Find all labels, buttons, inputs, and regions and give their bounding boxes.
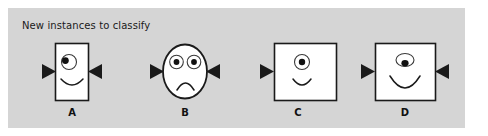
instance-a-figure (20, 38, 124, 106)
instance-c[interactable]: C (246, 38, 350, 128)
instance-b-label: B (133, 107, 237, 118)
instances-panel: New instances to classify (8, 8, 465, 128)
ear-right-icon (435, 64, 449, 79)
instance-a-label: A (20, 107, 124, 118)
instance-b[interactable]: B (133, 38, 237, 128)
instance-d-label: D (353, 107, 457, 118)
face-a-drawing (20, 38, 124, 106)
instances-row: A (8, 38, 465, 128)
head-shape-ellipse (163, 45, 207, 99)
pupil-icon (62, 57, 69, 64)
ear-left-icon (150, 64, 164, 79)
face-d-drawing (353, 38, 457, 106)
instance-c-label: C (246, 107, 350, 118)
ear-right-icon (206, 64, 220, 79)
pupil-icon (401, 60, 408, 66)
ear-left-icon (361, 64, 375, 79)
pupil-right-icon (191, 59, 197, 65)
head-shape-square (376, 44, 436, 101)
instance-c-figure (246, 38, 350, 106)
face-b-drawing (133, 38, 237, 106)
pupil-left-icon (174, 59, 180, 65)
head-shape-square (56, 44, 89, 101)
instance-d-figure (353, 38, 457, 106)
page-title: New instances to classify (22, 20, 150, 31)
ear-right-icon (88, 64, 102, 79)
ear-left-icon (260, 64, 274, 79)
ear-left-icon (42, 64, 56, 79)
instance-b-figure (133, 38, 237, 106)
figure-root: New instances to classify (0, 0, 488, 136)
head-shape-square (275, 44, 337, 101)
pupil-icon (299, 59, 305, 65)
instance-a[interactable]: A (20, 38, 124, 128)
face-c-drawing (246, 38, 350, 106)
instance-d[interactable]: D (353, 38, 457, 128)
